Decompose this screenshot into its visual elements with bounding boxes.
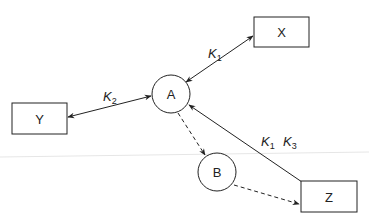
edge-a-x-label: K1: [208, 46, 222, 63]
edge-a-y-label: K2: [103, 89, 117, 106]
node-y: Y: [12, 103, 67, 134]
diagram-canvas: X Y Z A B K1 K2 K1 K3: [0, 0, 369, 222]
node-a: A: [152, 75, 190, 113]
edge-b-z: [234, 185, 299, 204]
node-x-label: X: [277, 25, 286, 40]
node-z-label: Z: [325, 190, 333, 205]
edge-a-b: [178, 113, 205, 155]
edge-z-a-label-1: K1: [261, 134, 275, 151]
node-z: Z: [301, 181, 357, 212]
node-x: X: [254, 17, 309, 47]
divider-line: [0, 152, 369, 157]
node-y-label: Y: [35, 112, 44, 127]
node-b-label: B: [213, 165, 222, 180]
edge-z-a-label-2: K3: [283, 134, 297, 151]
node-a-label: A: [167, 87, 176, 102]
node-b: B: [198, 153, 236, 191]
